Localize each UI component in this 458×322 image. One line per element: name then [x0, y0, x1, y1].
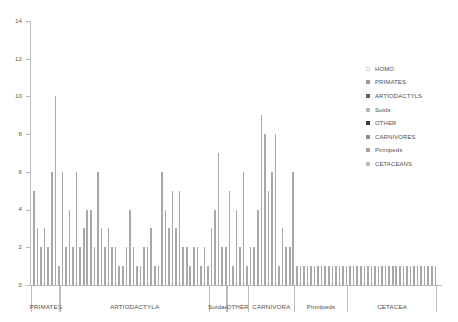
bar [147, 247, 149, 285]
bar [51, 172, 53, 285]
bar [33, 191, 35, 285]
x-axis-group-label: ARTIODACTYLA [110, 303, 159, 310]
bar [76, 172, 78, 285]
bar [324, 266, 326, 285]
bar [257, 210, 259, 285]
y-tick-label: 4 [0, 206, 22, 212]
bar [179, 191, 181, 285]
x-axis-group-label: CETACEA [377, 303, 407, 310]
bar [207, 266, 209, 285]
bar [79, 247, 81, 285]
bar [261, 115, 263, 285]
bar [264, 134, 266, 285]
bar [172, 191, 174, 285]
bar [289, 247, 291, 285]
bar [339, 266, 341, 285]
bar [399, 266, 401, 285]
legend-item-primates[interactable]: PRIMATES [366, 76, 456, 90]
bar [406, 266, 408, 285]
bar [158, 266, 160, 285]
legend-item-cetaceans[interactable]: CETACEANS [366, 157, 456, 171]
bar [115, 247, 117, 285]
bar [271, 172, 273, 285]
bar [321, 266, 323, 285]
bar [47, 247, 49, 285]
x-axis-group-label: Suidae [208, 303, 228, 310]
x-axis-group-carnivora: CARNIVORA [248, 286, 295, 312]
x-axis-group-cetacea: CETACEA [347, 286, 437, 312]
bar [378, 266, 380, 285]
legend-item-other[interactable]: OTHER [366, 116, 456, 130]
bar [193, 247, 195, 285]
bar [282, 228, 284, 285]
legend-label: HOMO [375, 66, 394, 72]
bar [37, 228, 39, 285]
legend-swatch-icon [366, 80, 370, 84]
bar [364, 266, 366, 285]
legend-label: CETACEANS [375, 161, 412, 167]
legend-item-carnivores[interactable]: CARNIVORES [366, 130, 456, 144]
bar [285, 247, 287, 285]
legend-swatch-icon [366, 94, 370, 98]
bar [371, 266, 373, 285]
bar [175, 228, 177, 285]
bar [335, 266, 337, 285]
bar [133, 247, 135, 285]
bar [136, 266, 138, 285]
bar [72, 247, 74, 285]
bar [424, 266, 426, 285]
bar [275, 134, 277, 285]
legend-label: Suids [375, 107, 391, 113]
bar [189, 266, 191, 285]
bar [243, 172, 245, 285]
bar [122, 266, 124, 285]
bar [374, 266, 376, 285]
bar [268, 191, 270, 285]
bar [126, 247, 128, 285]
bar [118, 266, 120, 285]
bar [435, 266, 437, 285]
bar [225, 247, 227, 285]
x-axis-group-label: Pinnipeds [307, 303, 336, 310]
bar [90, 210, 92, 285]
bar [403, 266, 405, 285]
x-axis-group-pinnipeds: Pinnipeds [294, 286, 348, 312]
bar [86, 210, 88, 285]
bar [221, 247, 223, 285]
bar [300, 266, 302, 285]
legend-label: CARNIVORES [375, 134, 416, 140]
bar [111, 247, 113, 285]
bar [278, 266, 280, 285]
bar [417, 266, 419, 285]
bar [360, 266, 362, 285]
legend-item-suids[interactable]: Suids [366, 103, 456, 117]
bar [388, 266, 390, 285]
legend-swatch-icon [366, 121, 370, 125]
bar [55, 96, 57, 285]
legend-label: PRIMATES [375, 79, 406, 85]
x-axis-group-label: PRIMATES [30, 303, 62, 310]
bar [239, 247, 241, 285]
bar [292, 172, 294, 285]
bar [413, 266, 415, 285]
bar [161, 172, 163, 285]
x-axis-group-label: CARNIVORA [252, 303, 290, 310]
bar [168, 228, 170, 285]
bar [101, 228, 103, 285]
bar [143, 247, 145, 285]
bar [150, 228, 152, 285]
bar [186, 247, 188, 285]
y-tick-label: 14 [0, 18, 22, 24]
bar [44, 228, 46, 285]
bar [182, 247, 184, 285]
legend-item-homo[interactable]: HOMO [366, 62, 456, 76]
legend-item-artiodactyls[interactable]: ARTIODACTYLS [366, 89, 456, 103]
bar [154, 266, 156, 285]
legend-item-pinnipeds[interactable]: Pinnipeds [366, 144, 456, 158]
y-tick-label: 12 [0, 56, 22, 62]
bar [353, 266, 355, 285]
bar [342, 266, 344, 285]
legend: HOMOPRIMATESARTIODACTYLSSuidsOTHERCARNIV… [366, 62, 456, 171]
bar [108, 228, 110, 285]
bar [381, 266, 383, 285]
